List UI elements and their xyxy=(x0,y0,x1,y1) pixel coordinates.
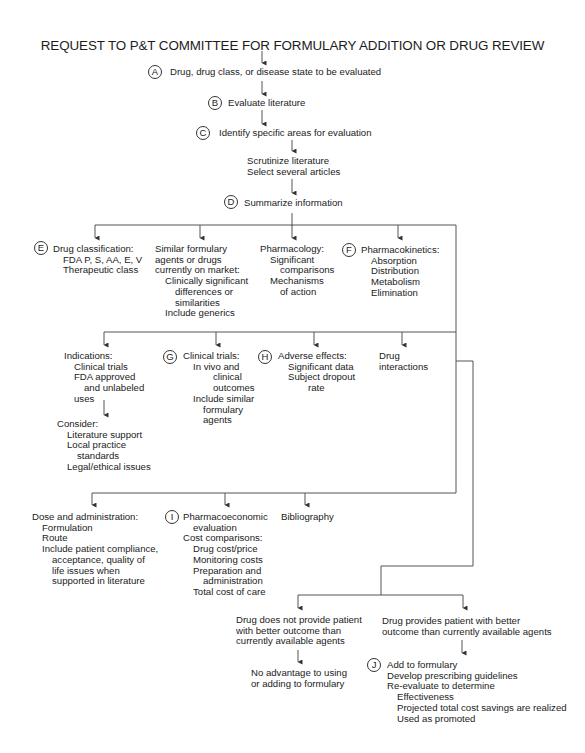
node-line: of action xyxy=(260,287,334,298)
step-a-text: Drug, drug class, or disease state to be… xyxy=(170,67,381,78)
step-badge-d: D xyxy=(224,195,238,209)
node-line: agents xyxy=(183,415,255,426)
step-badge-e: E xyxy=(34,241,48,255)
step-b-text: Evaluate literature xyxy=(228,98,305,109)
bibliography-node: Bibliography xyxy=(281,512,334,523)
node-line: rate xyxy=(278,383,355,394)
step-d-text: Summarize information xyxy=(244,198,343,209)
step-badge-j: J xyxy=(367,658,381,672)
node-line: Select several articles xyxy=(247,167,340,178)
node-line: Monitoring costs xyxy=(183,555,268,566)
node-line: or adding to formulary xyxy=(251,679,347,690)
no-advantage-node: No advantage to using or adding to formu… xyxy=(251,668,347,689)
node-line: Bibliography xyxy=(281,512,334,523)
drug-interactions-node: Drug interactions xyxy=(379,351,428,372)
drug-classification-node: Drug classification: FDA P, S, AA, E, V … xyxy=(53,244,142,276)
step-badge-f: F xyxy=(342,243,356,257)
indications-node: Indications: Clinical trials FDA approve… xyxy=(64,351,144,405)
step-badge-h: H xyxy=(258,350,272,364)
add-to-formulary-node: Add to formulary Develop prescribing gui… xyxy=(387,660,567,724)
pharmacology-node: Pharmacology: Significant comparisons Me… xyxy=(260,244,334,298)
node-line: Used as promoted xyxy=(387,714,567,725)
node-line: Therapeutic class xyxy=(53,265,142,276)
step-badge-b: B xyxy=(208,96,222,110)
node-line: uses xyxy=(64,394,144,405)
node-line: Include similar xyxy=(183,394,255,405)
node-line: acceptance, quality of xyxy=(32,555,158,566)
step-badge-a: A xyxy=(148,65,162,79)
node-line: outcome than currently available agents xyxy=(382,627,552,638)
pharmacokinetics-node: Pharmacokinetics: Absorption Distributio… xyxy=(361,245,439,299)
node-line: Total cost of care xyxy=(183,587,268,598)
flowchart-title: REQUEST TO P&T COMMITTEE FOR FORMULARY A… xyxy=(0,38,585,53)
formulary-review-flowchart: REQUEST TO P&T COMMITTEE FOR FORMULARY A… xyxy=(0,0,585,753)
clinical-trials-node: Clinical trials: In vivo and clinical ou… xyxy=(183,351,255,426)
better-outcome-node: Drug provides patient with better outcom… xyxy=(382,616,552,637)
node-line: supported in literature xyxy=(32,576,158,587)
step-c-text: Identify specific areas for evaluation xyxy=(219,128,372,139)
node-line: Elimination xyxy=(361,288,439,299)
no-better-outcome-node: Drug does not provide patient with bette… xyxy=(236,615,362,647)
node-line: Legal/ethical issues xyxy=(57,462,151,473)
similar-agents-node: Similar formulary agents or drugs curren… xyxy=(155,244,248,319)
scrutinize-literature-node: Scrutinize literature Select several art… xyxy=(247,156,340,177)
node-line: interactions xyxy=(379,362,428,373)
node-line: currently available agents xyxy=(236,636,362,647)
step-badge-c: C xyxy=(196,126,210,140)
dose-administration-node: Dose and administration: Formulation Rou… xyxy=(32,512,158,587)
node-line: differences or xyxy=(155,287,248,298)
node-line: Projected total cost savings are realize… xyxy=(387,703,567,714)
adverse-effects-node: Adverse effects: Significant data Subjec… xyxy=(278,351,355,394)
node-line: Include generics xyxy=(155,308,248,319)
step-badge-i: I xyxy=(165,510,179,524)
consider-node: Consider: Literature support Local pract… xyxy=(57,419,151,473)
pharmacoeconomic-node: Pharmacoeconomic evaluation Cost compari… xyxy=(183,512,268,598)
step-badge-g: G xyxy=(163,350,177,364)
